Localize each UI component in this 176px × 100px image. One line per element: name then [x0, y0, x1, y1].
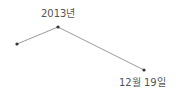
- point-left: [15, 42, 18, 45]
- label-year: 2013년: [41, 9, 75, 19]
- label-date: 12월 19일: [119, 78, 166, 88]
- connector-line: [17, 27, 144, 70]
- point-middle: [56, 25, 59, 28]
- point-right: [142, 68, 145, 71]
